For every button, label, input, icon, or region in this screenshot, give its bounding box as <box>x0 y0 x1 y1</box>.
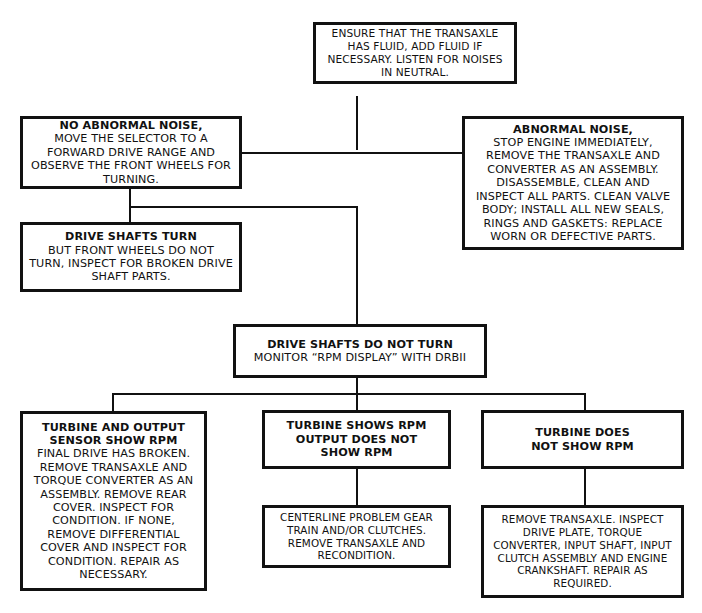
node-turbine-does-not-show: TURBINE DOES NOT SHOW RPM <box>481 410 684 469</box>
node-title: TURBINE SHOWS RPM OUTPUT DOES NOT SHOW R… <box>283 419 430 459</box>
node-body: CENTERLINE PROBLEM GEAR TRAIN AND/OR CLU… <box>269 511 444 562</box>
node-body: STOP ENGINE IMMEDIATELY, REMOVE THE TRAN… <box>471 136 675 243</box>
node-turbine-shows-rpm: TURBINE SHOWS RPM OUTPUT DOES NOT SHOW R… <box>262 410 451 469</box>
node-drive-shafts-do-not-turn: DRIVE SHAFTS DO NOT TURN MONITOR “RPM DI… <box>233 324 487 378</box>
node-remove-transaxle: REMOVE TRANSAXLE. INSPECT DRIVE PLATE, T… <box>481 505 684 598</box>
node-no-abnormal-noise: NO ABNORMAL NOISE, MOVE THE SELECTOR TO … <box>20 116 242 189</box>
node-body: MOVE THE SELECTOR TO A FORWARD DRIVE RAN… <box>29 132 233 186</box>
node-turbine-and-output: TURBINE AND OUTPUT SENSOR SHOW RPM FINAL… <box>20 411 207 591</box>
connector-to-do-not-turn <box>356 206 358 324</box>
connector-rpm-branch <box>112 393 584 395</box>
connector-to-centerline <box>356 468 358 505</box>
connector-start-down <box>356 96 358 150</box>
node-body: BUT FRONT WHEELS DO NOT TURN, INSPECT FO… <box>29 244 233 284</box>
node-title: DRIVE SHAFTS TURN <box>65 230 197 243</box>
node-title: DRIVE SHAFTS DO NOT TURN <box>267 338 453 351</box>
connector-do-not-turn-down <box>356 377 358 393</box>
node-title: ABNORMAL NOISE, <box>513 123 633 136</box>
node-body: FINAL DRIVE HAS BROKEN. REMOVE TRANSAXLE… <box>29 447 198 581</box>
node-drive-shafts-turn: DRIVE SHAFTS TURN BUT FRONT WHEELS DO NO… <box>20 222 242 292</box>
connector-to-turbine-output <box>112 393 114 411</box>
node-title: NO ABNORMAL NOISE, <box>59 119 202 132</box>
node-body: ENSURE THAT THE TRANSAXLE HAS FLUID, ADD… <box>322 27 508 79</box>
node-title: TURBINE AND OUTPUT SENSOR SHOW RPM <box>29 421 198 448</box>
connector-noise-branch <box>129 206 358 208</box>
node-body: REMOVE TRANSAXLE. INSPECT DRIVE PLATE, T… <box>490 513 675 590</box>
connector-to-turbine-shows <box>356 393 358 410</box>
connector-to-turbine-not-show <box>584 393 586 410</box>
node-title: TURBINE DOES NOT SHOW RPM <box>524 426 641 453</box>
connector-to-remove-transaxle <box>584 468 586 505</box>
node-body: MONITOR “RPM DISPLAY” WITH DRBII <box>254 351 466 364</box>
node-check-fluid: ENSURE THAT THE TRANSAXLE HAS FLUID, ADD… <box>313 22 517 84</box>
connector-start-branch <box>242 152 464 154</box>
node-abnormal-noise: ABNORMAL NOISE, STOP ENGINE IMMEDIATELY,… <box>462 116 684 250</box>
node-centerline-problem: CENTERLINE PROBLEM GEAR TRAIN AND/OR CLU… <box>262 505 451 568</box>
